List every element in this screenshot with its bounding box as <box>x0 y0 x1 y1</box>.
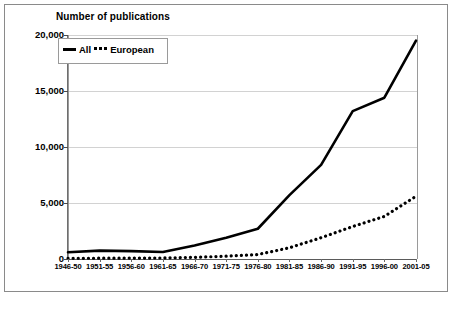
x-tick-label: 1951-55 <box>86 262 113 271</box>
x-tick-mark <box>384 259 385 262</box>
x-tick-mark <box>416 259 417 262</box>
x-tick-label: 1956-60 <box>118 262 145 271</box>
y-tick-label: 5,000 <box>40 197 64 208</box>
legend-entries: All European <box>63 44 154 55</box>
plot-area <box>68 35 418 259</box>
legend-label-european: European <box>110 44 154 55</box>
x-tick-mark <box>289 259 290 262</box>
x-tick-mark <box>226 259 227 262</box>
chart-title: Number of publications <box>56 11 170 22</box>
legend-swatch-all-icon <box>63 48 76 51</box>
x-tick-mark <box>68 259 69 262</box>
x-axis-labels: 1946-501951-551956-601961-651966-701971-… <box>0 262 458 278</box>
y-tick-label: 15,000 <box>35 85 64 96</box>
chart-figure: Number of publications 05,00010,00015,00… <box>0 0 458 312</box>
y-tick-mark <box>64 91 68 92</box>
y-tick-mark <box>64 203 68 204</box>
gridline-15000 <box>69 91 417 92</box>
x-tick-label: 1986-90 <box>307 262 334 271</box>
gridline-20000 <box>69 35 417 36</box>
gridline-10000 <box>69 147 417 148</box>
x-tick-label: 1976-80 <box>244 262 271 271</box>
x-tick-mark <box>321 259 322 262</box>
x-tick-label: 1961-65 <box>149 262 176 271</box>
legend-label-all: All <box>79 44 91 55</box>
x-tick-mark <box>131 259 132 262</box>
x-tick-label: 1971-75 <box>213 262 240 271</box>
x-tick-label: 1946-50 <box>54 262 81 271</box>
x-tick-mark <box>163 259 164 262</box>
x-tick-label: 1966-70 <box>181 262 208 271</box>
gridline-5000 <box>69 203 417 204</box>
chart-legend: All European <box>58 38 168 64</box>
legend-swatch-european-icon <box>94 47 107 53</box>
x-tick-label: 1996-00 <box>371 262 398 271</box>
y-tick-label: 10,000 <box>35 141 64 152</box>
x-tick-mark <box>353 259 354 262</box>
x-tick-mark <box>195 259 196 262</box>
y-tick-mark <box>64 35 68 36</box>
gridline-0 <box>69 259 417 260</box>
y-tick-mark <box>64 147 68 148</box>
x-tick-mark <box>258 259 259 262</box>
x-tick-label: 2001-05 <box>402 262 429 271</box>
x-tick-label: 1981-85 <box>276 262 303 271</box>
x-tick-label: 1991-95 <box>339 262 366 271</box>
x-tick-mark <box>100 259 101 262</box>
